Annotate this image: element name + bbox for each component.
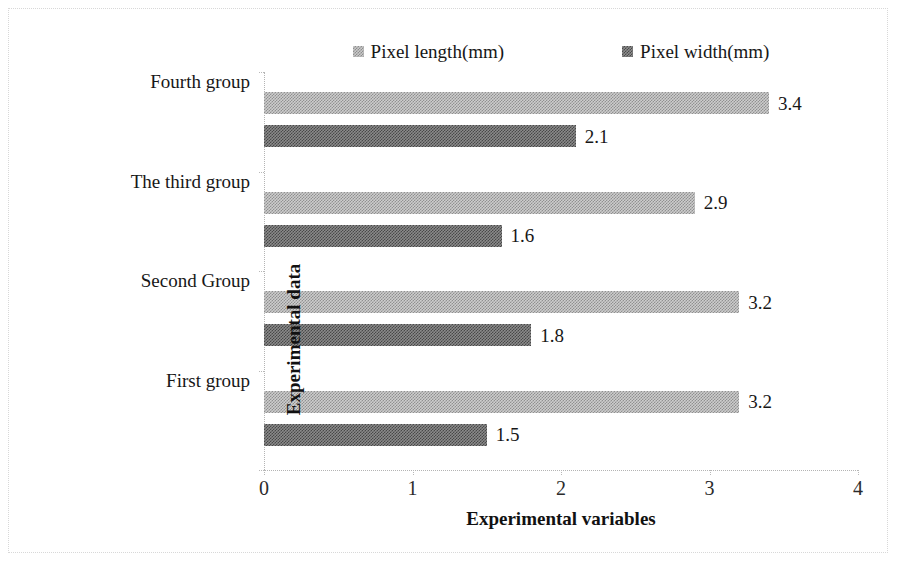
chart-figure: Pixel length(mm) Pixel width(mm) Fourth … — [0, 0, 898, 563]
bar-value-label: 2.9 — [704, 193, 728, 212]
category-label-third-group: The third group — [20, 172, 250, 191]
bar-pixel-length[interactable] — [264, 92, 769, 114]
bar-value-label: 3.4 — [778, 94, 802, 113]
y-axis-title: Experimental data — [284, 240, 303, 440]
x-tick-label-2: 2 — [556, 478, 566, 498]
x-axis-title: Experimental variables — [264, 509, 858, 528]
plot-area: Fourth group 3.4 2.1 The third group 2.9… — [264, 72, 858, 470]
legend-item-pixel-length[interactable]: Pixel length(mm) — [353, 42, 505, 61]
bar-pixel-width[interactable] — [264, 324, 531, 346]
bar-pixel-width[interactable] — [264, 125, 576, 147]
bar-group-first: First group 3.2 1.5 — [264, 371, 858, 471]
legend-label-pixel-width: Pixel width(mm) — [640, 42, 769, 61]
pattern-swatch-dark-icon — [622, 46, 633, 57]
x-axis-tick — [710, 470, 712, 475]
bar-value-label: 3.2 — [748, 392, 772, 411]
bar-row-width: 2.1 — [264, 125, 609, 147]
x-axis-tick — [561, 470, 563, 475]
x-axis-tick — [264, 470, 266, 475]
bar-row-length: 3.4 — [264, 92, 802, 114]
bar-pixel-length[interactable] — [264, 192, 695, 214]
pattern-swatch-light-icon — [353, 46, 364, 57]
bar-group-fourth: Fourth group 3.4 2.1 — [264, 72, 858, 172]
x-tick-label-4: 4 — [853, 478, 863, 498]
bar-value-label: 1.6 — [511, 226, 535, 245]
bar-row-length: 3.2 — [264, 391, 772, 413]
x-tick-label-0: 0 — [259, 478, 269, 498]
bar-row-width: 1.6 — [264, 225, 534, 247]
x-tick-label-1: 1 — [408, 478, 418, 498]
chart-legend: Pixel length(mm) Pixel width(mm) — [264, 36, 858, 66]
x-axis-tick — [413, 470, 415, 475]
bar-group-second: Second Group 3.2 1.8 — [264, 271, 858, 371]
legend-item-pixel-width[interactable]: Pixel width(mm) — [622, 42, 769, 61]
legend-label-pixel-length: Pixel length(mm) — [371, 42, 505, 61]
bar-row-length: 2.9 — [264, 192, 727, 214]
bar-group-third: The third group 2.9 1.6 — [264, 172, 858, 272]
bar-value-label: 1.5 — [496, 425, 520, 444]
bar-value-label: 2.1 — [585, 127, 609, 146]
bar-row-width: 1.8 — [264, 324, 564, 346]
bar-value-label: 1.8 — [540, 326, 564, 345]
category-label-first-group: First group — [20, 371, 250, 390]
bar-value-label: 3.2 — [748, 293, 772, 312]
category-label-second-group: Second Group — [20, 271, 250, 290]
bar-row-length: 3.2 — [264, 291, 772, 313]
x-tick-label-3: 3 — [705, 478, 715, 498]
bar-pixel-length[interactable] — [264, 391, 739, 413]
x-axis-tick — [858, 470, 860, 475]
bar-pixel-length[interactable] — [264, 291, 739, 313]
category-label-fourth-group: Fourth group — [20, 72, 250, 91]
